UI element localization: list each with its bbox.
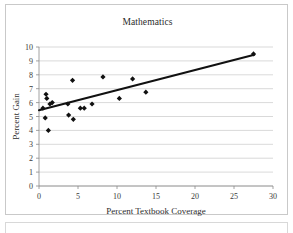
data-point xyxy=(130,76,135,81)
data-point xyxy=(82,106,87,111)
trend-line xyxy=(39,55,254,111)
data-point xyxy=(44,96,49,101)
x-tick-label: 15 xyxy=(152,192,160,201)
x-tick-label: 10 xyxy=(113,192,121,201)
figure-root: Mathematics 012345678910 051015202530 Pe… xyxy=(0,0,293,233)
y-tick-labels-group: 012345678910 xyxy=(25,43,33,191)
y-tick-label: 6 xyxy=(29,99,33,108)
x-tick-label: 5 xyxy=(76,192,80,201)
data-point xyxy=(89,101,94,106)
y-tick-label: 0 xyxy=(29,182,33,191)
data-point xyxy=(70,78,75,83)
y-tick-label: 4 xyxy=(29,126,33,135)
y-tick-label: 7 xyxy=(29,85,33,94)
x-tick-marks-group xyxy=(39,186,273,189)
data-point xyxy=(71,117,76,122)
below-chart-rule xyxy=(5,222,288,233)
y-tick-label: 1 xyxy=(29,168,33,177)
scatter-plot: 012345678910 051015202530 Percent Textbo… xyxy=(6,5,289,216)
y-tick-label: 3 xyxy=(29,140,33,149)
x-tick-labels-group: 051015202530 xyxy=(37,192,277,201)
x-tick-label: 30 xyxy=(269,192,277,201)
y-axis-title: Percent Gain xyxy=(11,93,21,140)
gridlines-group xyxy=(39,47,273,186)
data-point xyxy=(46,128,51,133)
y-tick-label: 2 xyxy=(29,154,33,163)
y-tick-label: 10 xyxy=(25,43,33,52)
x-tick-label: 25 xyxy=(230,192,238,201)
y-tick-marks-group xyxy=(36,47,39,186)
x-tick-label: 20 xyxy=(191,192,199,201)
y-tick-label: 9 xyxy=(29,57,33,66)
data-point xyxy=(117,96,122,101)
y-tick-label: 5 xyxy=(29,113,33,122)
x-tick-label: 0 xyxy=(37,192,41,201)
data-point xyxy=(66,113,71,118)
data-point xyxy=(43,92,48,97)
y-tick-label: 8 xyxy=(29,71,33,80)
data-point xyxy=(43,115,48,120)
chart-frame: Mathematics 012345678910 051015202530 Pe… xyxy=(5,4,288,215)
data-point xyxy=(143,90,148,95)
x-axis-title: Percent Textbook Coverage xyxy=(106,206,206,216)
